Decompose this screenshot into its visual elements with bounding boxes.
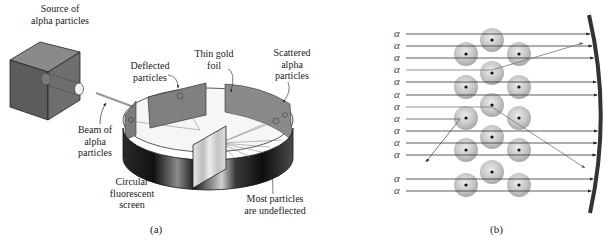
panel-a-label: (a)	[150, 223, 162, 235]
label-scattered-particles: Scattered alpha particles	[262, 47, 322, 82]
label-beam: Beam of alpha particles	[70, 124, 120, 159]
detector-screen	[589, 15, 601, 213]
nucleus	[517, 85, 520, 88]
label-thin-gold-foil: Thin gold foil	[190, 48, 238, 71]
alpha-symbol: α	[394, 27, 400, 39]
nucleus	[490, 170, 493, 173]
label-source: Source of alpha particles	[20, 3, 100, 26]
alpha-symbol: α	[394, 88, 400, 100]
label-most-undeflected: Most particles are undeflected	[235, 193, 315, 216]
alpha-path	[492, 107, 585, 168]
alpha-symbol: α	[394, 184, 400, 196]
nucleus	[517, 183, 520, 186]
panel-b-label: (b)	[490, 223, 503, 235]
nucleus	[464, 85, 467, 88]
alpha-symbol: α	[394, 172, 400, 184]
alpha-symbol: α	[394, 112, 400, 124]
nucleus	[490, 38, 493, 41]
alpha-symbol: α	[394, 39, 400, 51]
nucleus	[517, 148, 520, 151]
alpha-symbol: α	[394, 51, 400, 63]
nucleus	[517, 52, 520, 55]
alpha-symbol: α	[394, 148, 400, 160]
rutherford-experiment-figure: Source of alpha particles Deflected part…	[0, 0, 613, 245]
alpha-symbol: α	[394, 75, 400, 87]
nucleus	[490, 71, 493, 74]
nucleus	[464, 183, 467, 186]
alpha-symbol: α	[394, 100, 400, 112]
nucleus	[490, 135, 493, 138]
gold-atom-lattice	[454, 28, 531, 197]
alpha-path	[426, 119, 460, 162]
alpha-symbol: α	[394, 124, 400, 136]
label-deflected-particles: Deflected particles	[122, 60, 178, 83]
nucleus	[464, 116, 467, 119]
alpha-symbol: α	[394, 63, 400, 75]
alpha-path	[492, 43, 583, 70]
nucleus	[490, 103, 493, 106]
alpha-symbol: α	[394, 136, 400, 148]
label-circular-screen: Circular fluorescent screen	[105, 176, 159, 211]
nucleus	[464, 52, 467, 55]
fluorescent-screen-cylinder	[123, 83, 293, 190]
nucleus	[464, 148, 467, 151]
nucleus	[517, 116, 520, 119]
alpha-source-box	[10, 42, 84, 120]
